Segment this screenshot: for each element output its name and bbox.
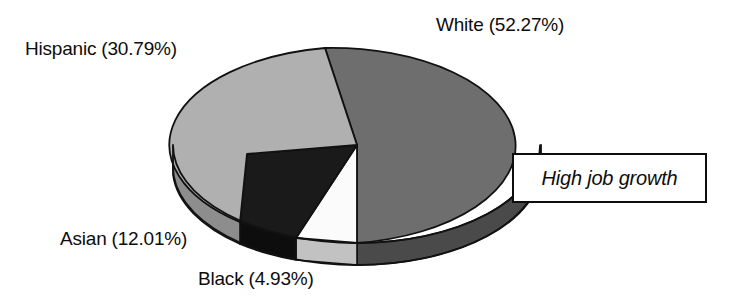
pie-top-face [169,48,515,243]
callout-label: High job growth [542,167,678,190]
callout-box: High job growth [512,153,707,203]
pie-label-asian: Asian (12.01%) [60,228,187,250]
pie-label-black: Black (4.93%) [198,268,314,290]
pie-label-white: White (52.27%) [436,14,564,36]
pie-label-hispanic: Hispanic (30.79%) [25,38,177,60]
pie-chart-figure: White (52.27%) Hispanic (30.79%) Asian (… [0,0,741,300]
